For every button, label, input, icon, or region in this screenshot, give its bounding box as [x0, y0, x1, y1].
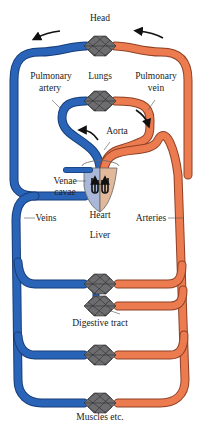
capillary-muscles: [84, 393, 116, 413]
systemic-veins: [16, 196, 96, 403]
label-arteries: Arteries: [136, 213, 167, 223]
capillary-digestive: [84, 296, 116, 316]
label-venae-cavae-1: Venae: [53, 176, 76, 186]
label-aorta: Aorta: [106, 126, 128, 136]
label-liver: Liver: [90, 230, 111, 240]
heart: [66, 160, 119, 212]
label-pulmonary-vein-2: vein: [148, 83, 165, 93]
capillary-head: [84, 36, 116, 56]
label-lungs: Lungs: [88, 71, 112, 81]
label-pulmonary-vein-1: Pulmonary: [135, 71, 177, 81]
capillary-organ: [84, 345, 116, 365]
label-pulmonary-artery-1: Pulmonary: [30, 71, 72, 81]
circulatory-diagram: Head Lungs Pulmonary artery Pulmonary ve…: [0, 0, 201, 423]
arrow-head-left-icon: [36, 31, 60, 38]
arrow-head-right-icon: [138, 31, 163, 38]
label-digestive-tract: Digestive tract: [72, 318, 128, 328]
label-heart: Heart: [89, 210, 110, 220]
label-pulmonary-artery-2: artery: [39, 83, 61, 93]
label-venae-cavae-2: cavae: [54, 187, 76, 197]
capillary-liver: [84, 274, 116, 294]
label-veins: Veins: [35, 213, 56, 223]
label-head: Head: [90, 13, 110, 23]
label-muscles: Muscles etc.: [76, 412, 124, 422]
capillary-lungs: [84, 91, 116, 111]
